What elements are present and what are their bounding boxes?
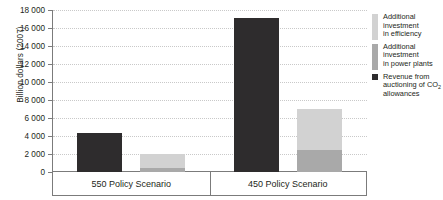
- y-axis-label: 12 000: [20, 60, 45, 69]
- y-axis-label: 18 000: [20, 6, 45, 15]
- y-axis-tick: [48, 64, 52, 65]
- y-axis-line: [52, 10, 53, 172]
- category-label-1: 550 Policy Scenario: [53, 172, 210, 195]
- gridline: [53, 28, 367, 29]
- legend-item-2: Additionalinvestmentin power plants: [372, 43, 443, 69]
- y-axis-tick: [48, 82, 52, 83]
- gridline: [53, 46, 367, 47]
- y-axis-label: 14 000: [20, 42, 45, 51]
- gridline: [53, 10, 367, 11]
- plot-area: 02 0004 0006 0008 00010 00012 00014 0001…: [52, 10, 367, 172]
- y-axis-label: 4 000: [25, 132, 46, 141]
- legend-swatch: [372, 44, 378, 70]
- y-axis-tick: [48, 118, 52, 119]
- bar-segment: [77, 133, 122, 172]
- bar-investment-2: [297, 109, 342, 172]
- y-axis-label: 6 000: [25, 114, 46, 123]
- category-axis: 550 Policy Scenario450 Policy Scenario: [52, 172, 367, 196]
- legend-label: Revenue fromauctioning of CO2allowances: [383, 73, 443, 99]
- legend-swatch: [372, 14, 378, 40]
- y-axis-label: 2 000: [25, 150, 46, 159]
- y-axis-tick: [48, 154, 52, 155]
- y-axis-label: 16 000: [20, 24, 45, 33]
- legend-label: Additionalinvestmentin power plants: [383, 43, 443, 69]
- bar-segment: [297, 109, 342, 150]
- gridline: [53, 82, 367, 83]
- bar-revenue-1: [77, 133, 122, 172]
- y-axis-label: 0: [40, 168, 45, 177]
- category-label-2: 450 Policy Scenario: [210, 172, 367, 195]
- chart-container: per year Billion dollars (2007) 02 0004 …: [0, 0, 443, 200]
- y-axis-tick: [48, 136, 52, 137]
- legend-label: Additionalinvestmentin efficiency: [383, 13, 443, 39]
- legend-item-1: Additionalinvestmentin efficiency: [372, 13, 443, 39]
- y-axis-tick: [48, 28, 52, 29]
- bar-investment-1: [140, 154, 185, 172]
- chart-legend: Additionalinvestmentin efficiencyAdditio…: [372, 13, 443, 102]
- bar-revenue-2: [234, 18, 279, 172]
- legend-swatch: [372, 74, 378, 80]
- gridline: [53, 64, 367, 65]
- bar-segment: [234, 18, 279, 172]
- gridline: [53, 100, 367, 101]
- bar-segment: [140, 154, 185, 168]
- y-axis-tick: [48, 100, 52, 101]
- y-axis-label: 10 000: [20, 78, 45, 87]
- legend-item-3: Revenue fromauctioning of CO2allowances: [372, 73, 443, 99]
- y-axis-tick: [48, 46, 52, 47]
- y-axis-tick: [48, 10, 52, 11]
- bar-segment: [297, 150, 342, 172]
- y-axis-label: 8 000: [25, 96, 46, 105]
